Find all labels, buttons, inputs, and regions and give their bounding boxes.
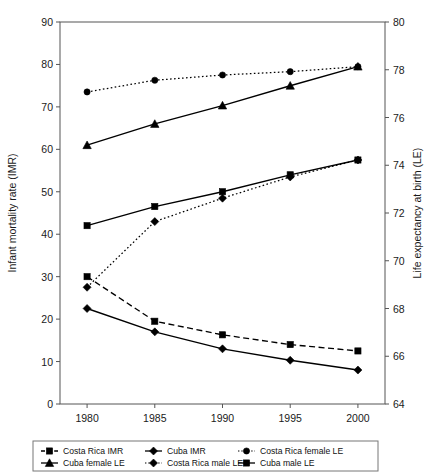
data-point-marker <box>355 348 361 354</box>
y2-axis-tick-label: 80 <box>393 16 405 28</box>
data-point-marker <box>152 203 158 209</box>
y2-axis-tick-label: 72 <box>393 207 405 219</box>
y-axis-tick-label: 60 <box>41 143 53 155</box>
legend-label: Cuba IMR <box>167 446 206 456</box>
legend-marker-sample <box>46 448 52 454</box>
data-point-marker <box>219 345 227 353</box>
series-line <box>87 309 358 371</box>
y2-axis-tick-label: 64 <box>393 398 405 410</box>
y-axis-title: Infant mortality rate (IMR) <box>6 153 18 272</box>
y-axis-tick-label: 40 <box>41 228 53 240</box>
legend-label: Cuba female LE <box>63 458 125 468</box>
data-point-marker <box>287 172 293 178</box>
y2-axis-tick-label: 78 <box>393 64 405 76</box>
data-point-marker <box>286 356 294 364</box>
y-axis-tick-label: 70 <box>41 101 53 113</box>
data-point-marker <box>84 89 90 95</box>
y2-axis-tick-label: 74 <box>393 159 405 171</box>
data-point-marker <box>152 77 158 83</box>
y-axis-tick-label: 80 <box>41 58 53 70</box>
series-cuba-imr <box>83 305 362 375</box>
legend-marker-sample <box>243 460 249 466</box>
legend-item[interactable]: Cuba IMR <box>145 446 206 456</box>
data-point-marker <box>84 223 90 229</box>
series-costa-rica-male-le <box>83 156 362 291</box>
chart-figure: 0102030405060708090646668707274767880198… <box>0 0 433 475</box>
data-point-marker <box>83 305 91 313</box>
data-point-marker <box>287 69 293 75</box>
series-line <box>87 67 358 92</box>
x-axis-tick-label: 1995 <box>279 412 303 424</box>
data-point-marker <box>219 332 225 338</box>
data-point-marker <box>355 157 361 163</box>
legend-label: Cuba male LE <box>260 458 315 468</box>
x-axis-tick-label: 2000 <box>346 412 370 424</box>
y-axis-tick-label: 20 <box>41 313 53 325</box>
legend-label: Costa Rica IMR <box>63 446 123 456</box>
chart-canvas: 0102030405060708090646668707274767880198… <box>0 0 433 475</box>
data-point-marker <box>219 189 225 195</box>
y2-axis-title: Life expectancy at birth (LE) <box>411 148 423 279</box>
data-point-marker <box>151 328 159 336</box>
y-axis-tick-label: 0 <box>47 398 53 410</box>
data-point-marker <box>84 274 90 280</box>
data-point-marker <box>151 218 159 226</box>
x-axis-tick-label: 1980 <box>75 412 99 424</box>
y2-axis-tick-label: 68 <box>393 303 405 315</box>
data-point-marker <box>354 366 362 374</box>
legend-label: Costa Rica female LE <box>260 446 343 456</box>
y-axis-tick-label: 90 <box>41 16 53 28</box>
y-axis-tick-label: 10 <box>41 356 53 368</box>
series-costa-rica-imr <box>84 274 361 354</box>
legend-marker-sample <box>243 448 249 454</box>
y2-axis-tick-label: 76 <box>393 112 405 124</box>
data-point-marker <box>287 341 293 347</box>
series-line <box>87 160 358 287</box>
legend-label: Costa Rica male LE <box>167 458 243 468</box>
y2-axis-tick-label: 66 <box>393 350 405 362</box>
data-point-marker <box>152 318 158 324</box>
data-point-marker <box>83 283 91 291</box>
x-axis-tick-label: 1990 <box>211 412 235 424</box>
y-axis-tick-label: 50 <box>41 186 53 198</box>
y2-axis-tick-label: 70 <box>393 255 405 267</box>
data-point-marker <box>219 72 225 78</box>
data-point-marker <box>219 194 227 202</box>
x-axis-tick-label: 1985 <box>143 412 167 424</box>
series-line <box>87 277 358 351</box>
series-cuba-male-le <box>84 157 361 229</box>
series-costa-rica-female-le <box>84 64 361 96</box>
y-axis-tick-label: 30 <box>41 271 53 283</box>
